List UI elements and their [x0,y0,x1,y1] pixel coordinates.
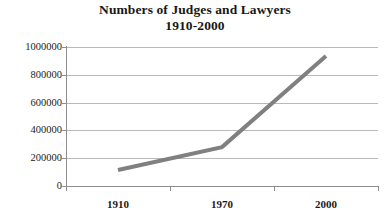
chart-screenshot: Numbers of Judges and Lawyers 1910-2000 … [0,0,390,218]
series-layer [0,0,390,218]
series-line-judges-and-lawyers [118,56,326,170]
